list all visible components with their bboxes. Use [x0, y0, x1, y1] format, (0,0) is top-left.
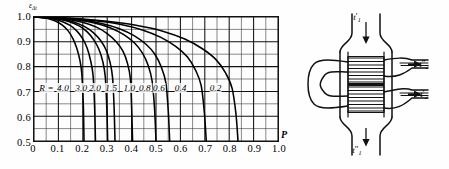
curve-R-1.5	[34, 17, 115, 141]
curve-lines	[34, 17, 278, 141]
x-tick-0.7: 0.7	[198, 143, 212, 154]
tube-bundle-upper	[348, 58, 384, 82]
x-tick-0.6: 0.6	[174, 143, 188, 154]
x-tick-0.8: 0.8	[223, 143, 237, 154]
x-tick-0.3: 0.3	[100, 143, 114, 154]
y-tick-0.9: 0.9	[17, 36, 31, 47]
curve-R-0.6	[34, 17, 170, 141]
y-tick-0.7: 0.7	[17, 86, 31, 97]
curve-R-0.2	[34, 17, 238, 141]
u-bend-inner-header	[320, 72, 348, 97]
figure-root: εΔt 1.00.90.80.70.60.5 R =4.03.02.01.51.…	[0, 0, 449, 169]
u-bend-outer-header	[308, 60, 348, 108]
x-tick-0: 0	[30, 143, 36, 154]
curve-R-0.4	[34, 17, 206, 141]
y-tick-0.6: 0.6	[17, 111, 31, 122]
x-tick-0.5: 0.5	[149, 143, 163, 154]
x-tick-0.9: 0.9	[247, 143, 261, 154]
x-tick-0.4: 0.4	[124, 143, 138, 154]
x-tick-1.0: 1.0	[272, 143, 286, 154]
plot-frame	[33, 16, 279, 142]
arrow-hot-outlet	[362, 128, 369, 147]
x-tick-0.1: 0.1	[51, 143, 65, 154]
heat-exchanger-schematic: t′1t″2t′2t″1	[300, 0, 449, 169]
shell-top-left-taper	[340, 14, 352, 52]
heat-exchanger-drawing	[300, 0, 449, 169]
x-axis-tick-labels: 00.10.20.30.40.50.60.70.80.91.0	[33, 143, 279, 159]
temperature-label-cold-inlet: t′2	[420, 88, 428, 100]
x-tick-0.2: 0.2	[75, 143, 89, 154]
y-axis-tick-labels: 1.00.90.80.70.60.5	[0, 16, 31, 142]
temperature-label-cold-outlet: t″2	[419, 58, 428, 70]
x-axis-label: P	[281, 129, 287, 140]
y-axis-label-subscript: Δt	[32, 5, 37, 11]
temperature-label-hot-inlet: t′1	[353, 11, 361, 23]
temperature-label-hot-outlet: t″1	[352, 144, 361, 156]
shell-bottom-right-taper	[380, 117, 392, 155]
arrow-hot-inlet	[362, 22, 369, 44]
curve-R-3.0	[34, 17, 95, 141]
y-tick-1.0: 1.0	[17, 11, 31, 22]
chart-area: εΔt 1.00.90.80.70.60.5 R =4.03.02.01.51.…	[0, 0, 300, 169]
y-tick-0.5: 0.5	[17, 137, 31, 148]
curve-R-4.0	[34, 17, 84, 141]
y-tick-0.8: 0.8	[17, 61, 31, 72]
shell-top-right-taper	[380, 14, 392, 52]
shell-bottom-left-taper	[340, 117, 352, 155]
tube-bundle-lower	[348, 87, 384, 111]
